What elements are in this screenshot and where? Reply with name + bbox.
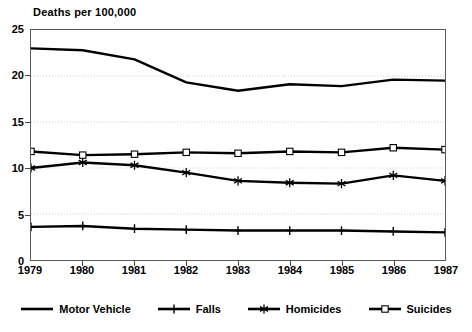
series-motor-vehicle xyxy=(31,48,445,90)
y-tick-label: 20 xyxy=(0,69,24,81)
chart-legend: Motor VehicleFallsHomicidesSuicides xyxy=(0,303,472,315)
y-tick-label: 25 xyxy=(0,23,24,35)
legend-item-motor-vehicle[interactable]: Motor Vehicle xyxy=(20,303,131,315)
legend-item-suicides[interactable]: Suicides xyxy=(368,303,452,315)
legend-item-homicides[interactable]: Homicides xyxy=(247,303,342,315)
x-tick-mark xyxy=(134,261,135,266)
series-suicides xyxy=(31,145,445,159)
legend-label: Suicides xyxy=(407,303,452,315)
x-tick-label: 1987 xyxy=(434,264,458,276)
chart-axis-title: Deaths per 100,000 xyxy=(33,6,136,18)
x-tick-mark xyxy=(238,261,239,266)
chart-screenshot: Deaths per 100,000 0510152025 1979198019… xyxy=(0,0,472,332)
plot-area xyxy=(30,29,446,261)
series-homicides xyxy=(31,158,445,188)
legend-label: Homicides xyxy=(286,303,342,315)
data-series-layer xyxy=(31,30,445,260)
legend-swatch-plus-icon xyxy=(157,303,191,315)
x-tick-label: 1979 xyxy=(18,264,42,276)
y-tick-label: 15 xyxy=(0,116,24,128)
legend-swatch-square-icon xyxy=(368,303,402,315)
legend-label: Motor Vehicle xyxy=(59,303,131,315)
x-tick-mark xyxy=(82,261,83,266)
x-tick-mark xyxy=(394,261,395,266)
legend-label: Falls xyxy=(196,303,221,315)
series-falls xyxy=(31,222,445,237)
legend-item-falls[interactable]: Falls xyxy=(157,303,221,315)
legend-swatch-star-icon xyxy=(247,303,281,315)
y-tick-label: 5 xyxy=(0,209,24,221)
x-tick-mark xyxy=(342,261,343,266)
y-tick-label: 10 xyxy=(0,162,24,174)
x-tick-mark xyxy=(290,261,291,266)
legend-swatch-none-icon xyxy=(20,303,54,315)
x-tick-mark xyxy=(186,261,187,266)
